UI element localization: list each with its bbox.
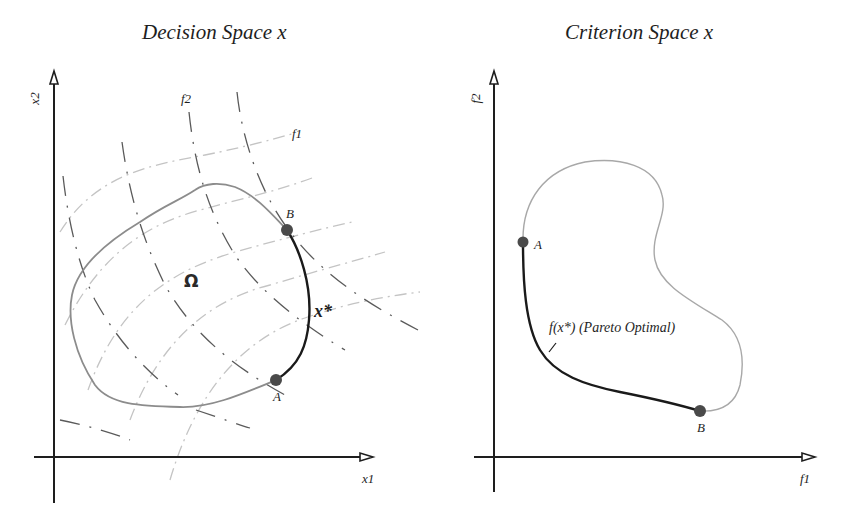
f1-contour-3 xyxy=(88,222,352,390)
point-a-right-label: A xyxy=(534,238,542,251)
point-b-right-label: B xyxy=(697,421,705,434)
f1-contours xyxy=(60,133,420,480)
f2-contour-4 xyxy=(237,92,418,330)
point-b-left xyxy=(281,224,293,236)
f1-contour-1 xyxy=(60,133,295,232)
point-b-right xyxy=(694,405,706,417)
x-star-label: x* xyxy=(314,302,332,320)
f2-contours xyxy=(60,92,418,440)
f2-contour-5 xyxy=(60,420,130,440)
f1-axis-label: f1 xyxy=(800,472,810,485)
point-a-left-label: A xyxy=(273,390,281,403)
x2-axis-arrowhead xyxy=(50,71,58,84)
omega-region-label: Ω xyxy=(184,273,198,290)
point-b-left-label: B xyxy=(286,207,294,220)
f2-contour-label: f2 xyxy=(181,92,191,105)
diagram-canvas xyxy=(0,0,842,521)
pareto-front-label: f(x*) (Pareto Optimal) xyxy=(549,321,675,335)
pareto-front-leader-line xyxy=(549,343,556,352)
point-a-right xyxy=(518,237,529,248)
x2-axis-label: x2 xyxy=(28,92,41,104)
multiobjective-optimization-figure: Decision Space x Criterion Space x xyxy=(0,0,842,521)
f1-contour-2 xyxy=(65,178,312,325)
feasible-region-omega xyxy=(71,184,287,407)
f1-contour-4 xyxy=(130,252,385,420)
criterion-space-panel xyxy=(474,71,815,492)
f1-axis-arrowhead xyxy=(802,453,815,461)
f2-contour-6 xyxy=(196,410,250,428)
f1-contour-5 xyxy=(170,292,420,480)
decision-space-panel xyxy=(34,71,420,503)
objective-region-boundary xyxy=(523,161,742,411)
x1-axis-label: x1 xyxy=(362,472,374,485)
x1-axis-arrowhead xyxy=(360,453,373,461)
f1-contour-label: f1 xyxy=(292,127,302,140)
f2-axis-arrowhead xyxy=(490,71,498,84)
point-a-left xyxy=(270,374,282,386)
f2-axis-label: f2 xyxy=(469,93,482,103)
